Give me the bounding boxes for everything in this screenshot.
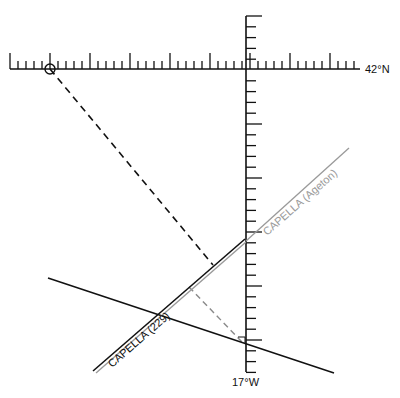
latitude-scale [10,53,360,69]
plot-lines [48,69,349,373]
plotting-sheet-diagram: 42°N 17°W CAPELLA (229) CAPELLA (Ageton) [0,0,400,398]
position-markers [45,64,245,343]
line-of-position-other [48,278,334,373]
longitude-label: 17°W [232,376,260,388]
capella-ageton-label: CAPELLA (Ageton) [260,167,339,238]
azimuth-line-dashed [50,69,213,265]
latitude-label: 42°N [365,63,390,75]
capella-229-label: CAPELLA (229) [105,310,171,370]
plot-labels: 42°N 17°W CAPELLA (229) CAPELLA (Ageton) [105,63,389,388]
